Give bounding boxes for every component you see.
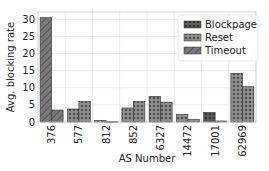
y-tick-label: 0	[29, 117, 35, 128]
bar-376-1	[40, 18, 52, 122]
x-tick-label: 14472	[182, 125, 193, 157]
x-tick-label: 62969	[237, 125, 248, 157]
y-tick-label: 25	[22, 31, 35, 42]
bar-chart: 051015202530 376577812852632714472170016…	[0, 0, 269, 171]
y-tick-label: 5	[29, 99, 35, 110]
legend-label-timeout: Timeout	[204, 45, 246, 56]
y-tick-label: 30	[22, 14, 35, 25]
bar-14472-1	[176, 114, 188, 122]
bar-852-2	[133, 101, 145, 122]
legend-swatch-reset	[184, 34, 201, 41]
x-tick-label: 6327	[155, 125, 166, 150]
x-tick-label: 577	[73, 125, 84, 144]
x-tick-label: 852	[128, 125, 139, 144]
y-tick-label: 20	[22, 48, 35, 59]
y-tick-label: 10	[22, 82, 35, 93]
x-tick-label: 17001	[210, 125, 221, 157]
bar-17001-1	[204, 112, 216, 122]
y-axis-label: Avg. blocking rate	[5, 22, 16, 112]
x-tick-label: 812	[101, 125, 112, 144]
legend-label-blockpage: Blockpage	[205, 19, 257, 30]
bar-577-1	[67, 109, 79, 122]
y-tick-label: 15	[22, 65, 35, 76]
bar-6327-1	[149, 96, 161, 122]
bar-577-2	[79, 101, 91, 122]
bar-62969-1	[231, 73, 243, 122]
bar-62969-2	[242, 87, 254, 122]
x-tick-label: 376	[46, 125, 57, 144]
bar-6327-2	[161, 102, 173, 122]
bar-852-1	[122, 108, 134, 122]
y-axis-ticks: 051015202530	[22, 14, 35, 128]
bar-376-2	[52, 110, 64, 122]
x-axis-label: AS Number	[119, 153, 176, 164]
legend: BlockpageResetTimeout	[178, 15, 258, 61]
legend-swatch-timeout	[184, 47, 201, 54]
bar-14472-2	[188, 119, 200, 122]
legend-label-reset: Reset	[205, 32, 233, 43]
legend-swatch-blockpage	[184, 21, 201, 28]
